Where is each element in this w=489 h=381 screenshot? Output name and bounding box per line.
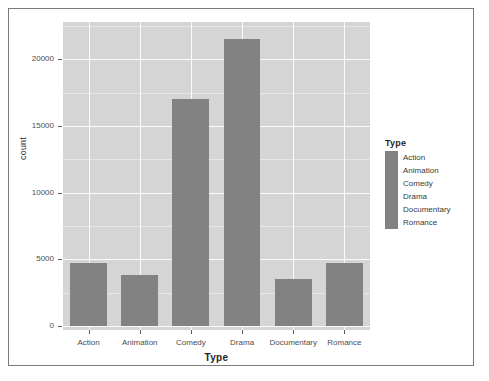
- x-axis-tick-mark: [191, 330, 192, 334]
- gridline-horizontal-minor: [63, 159, 370, 160]
- x-axis-title: Type: [63, 352, 370, 363]
- y-axis-tick-mark: [58, 59, 62, 60]
- y-axis-tick-mark: [58, 126, 62, 127]
- y-axis-tick-label: 5000: [36, 255, 54, 263]
- bar: [224, 39, 261, 326]
- gridline-horizontal-minor: [63, 93, 370, 94]
- y-axis-tick-label: 10000: [32, 189, 54, 197]
- gridline-horizontal-minor: [63, 293, 370, 294]
- gridline-horizontal-minor: [63, 26, 370, 27]
- bar: [275, 279, 312, 326]
- gridline-horizontal-major: [63, 193, 370, 194]
- bar: [172, 99, 209, 326]
- legend-entry-labels: ActionAnimationComedyDramaDocumentaryRom…: [403, 151, 451, 229]
- plot-panel: [63, 22, 370, 330]
- x-axis-tick-mark: [140, 330, 141, 334]
- y-axis-tick-label: 0: [50, 322, 54, 330]
- bar-chart-figure: 05000100001500020000 count ActionAnimati…: [0, 0, 489, 381]
- bar: [70, 263, 107, 326]
- legend-entry-label: Drama: [403, 190, 451, 203]
- bar: [121, 275, 158, 326]
- legend-title: Type: [385, 138, 451, 148]
- x-axis-tick-mark: [344, 330, 345, 334]
- x-axis-tick-label: Drama: [230, 338, 254, 347]
- legend-entry-label: Animation: [403, 164, 451, 177]
- x-axis-tick-label: Comedy: [176, 338, 206, 347]
- legend-entry-label: Romance: [403, 216, 451, 229]
- gridline-horizontal-major: [63, 326, 370, 327]
- x-axis-tick-label: Action: [77, 338, 99, 347]
- x-axis-tick-mark: [242, 330, 243, 334]
- y-axis-tick-label: 20000: [32, 55, 54, 63]
- legend-color-swatch-strip: [385, 151, 398, 229]
- legend-entry-label: Documentary: [403, 203, 451, 216]
- y-axis-tick-mark: [58, 193, 62, 194]
- gridline-horizontal-major: [63, 59, 370, 60]
- gridline-horizontal-major: [63, 259, 370, 260]
- legend-entry-label: Action: [403, 151, 451, 164]
- y-axis-title: count: [18, 137, 28, 160]
- legend: Type ActionAnimationComedyDramaDocumenta…: [385, 138, 451, 229]
- legend-entry-label: Comedy: [403, 177, 451, 190]
- gridline-horizontal-major: [63, 126, 370, 127]
- legend-body: ActionAnimationComedyDramaDocumentaryRom…: [385, 151, 451, 229]
- y-axis-tick-mark: [58, 259, 62, 260]
- gridline-horizontal-minor: [63, 226, 370, 227]
- y-axis-tick-label: 15000: [32, 122, 54, 130]
- x-axis-tick-label: Romance: [327, 338, 361, 347]
- y-axis-tick-mark: [58, 326, 62, 327]
- bar: [326, 263, 363, 326]
- x-axis-tick-label: Animation: [122, 338, 158, 347]
- x-axis-tick-mark: [89, 330, 90, 334]
- y-axis-tick-labels: 05000100001500020000: [0, 0, 54, 381]
- x-axis-tick-mark: [293, 330, 294, 334]
- x-axis-tick-label: Documentary: [269, 338, 317, 347]
